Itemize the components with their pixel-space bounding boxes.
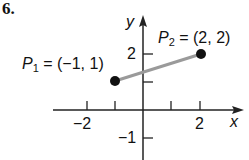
- x-tick-label-neg2: −2: [73, 116, 91, 132]
- p1-label: P1 = (−1, 1): [22, 56, 104, 74]
- p1-letter: P: [22, 55, 33, 72]
- y-tick-label-neg1: −1: [118, 130, 136, 146]
- point-p1: [110, 76, 120, 86]
- p2-value: = (2, 2): [175, 29, 231, 46]
- x-axis-label: x: [230, 114, 238, 130]
- y-tick-label-2: 2: [127, 46, 136, 62]
- point-p2: [196, 49, 206, 59]
- p1-value: = (−1, 1): [39, 55, 104, 72]
- y-ticks: [143, 54, 153, 138]
- x-tick-label-2: 2: [195, 116, 204, 132]
- p2-label: P2 = (2, 2): [158, 30, 230, 48]
- y-axis-label: y: [126, 14, 134, 30]
- p2-letter: P: [158, 29, 169, 46]
